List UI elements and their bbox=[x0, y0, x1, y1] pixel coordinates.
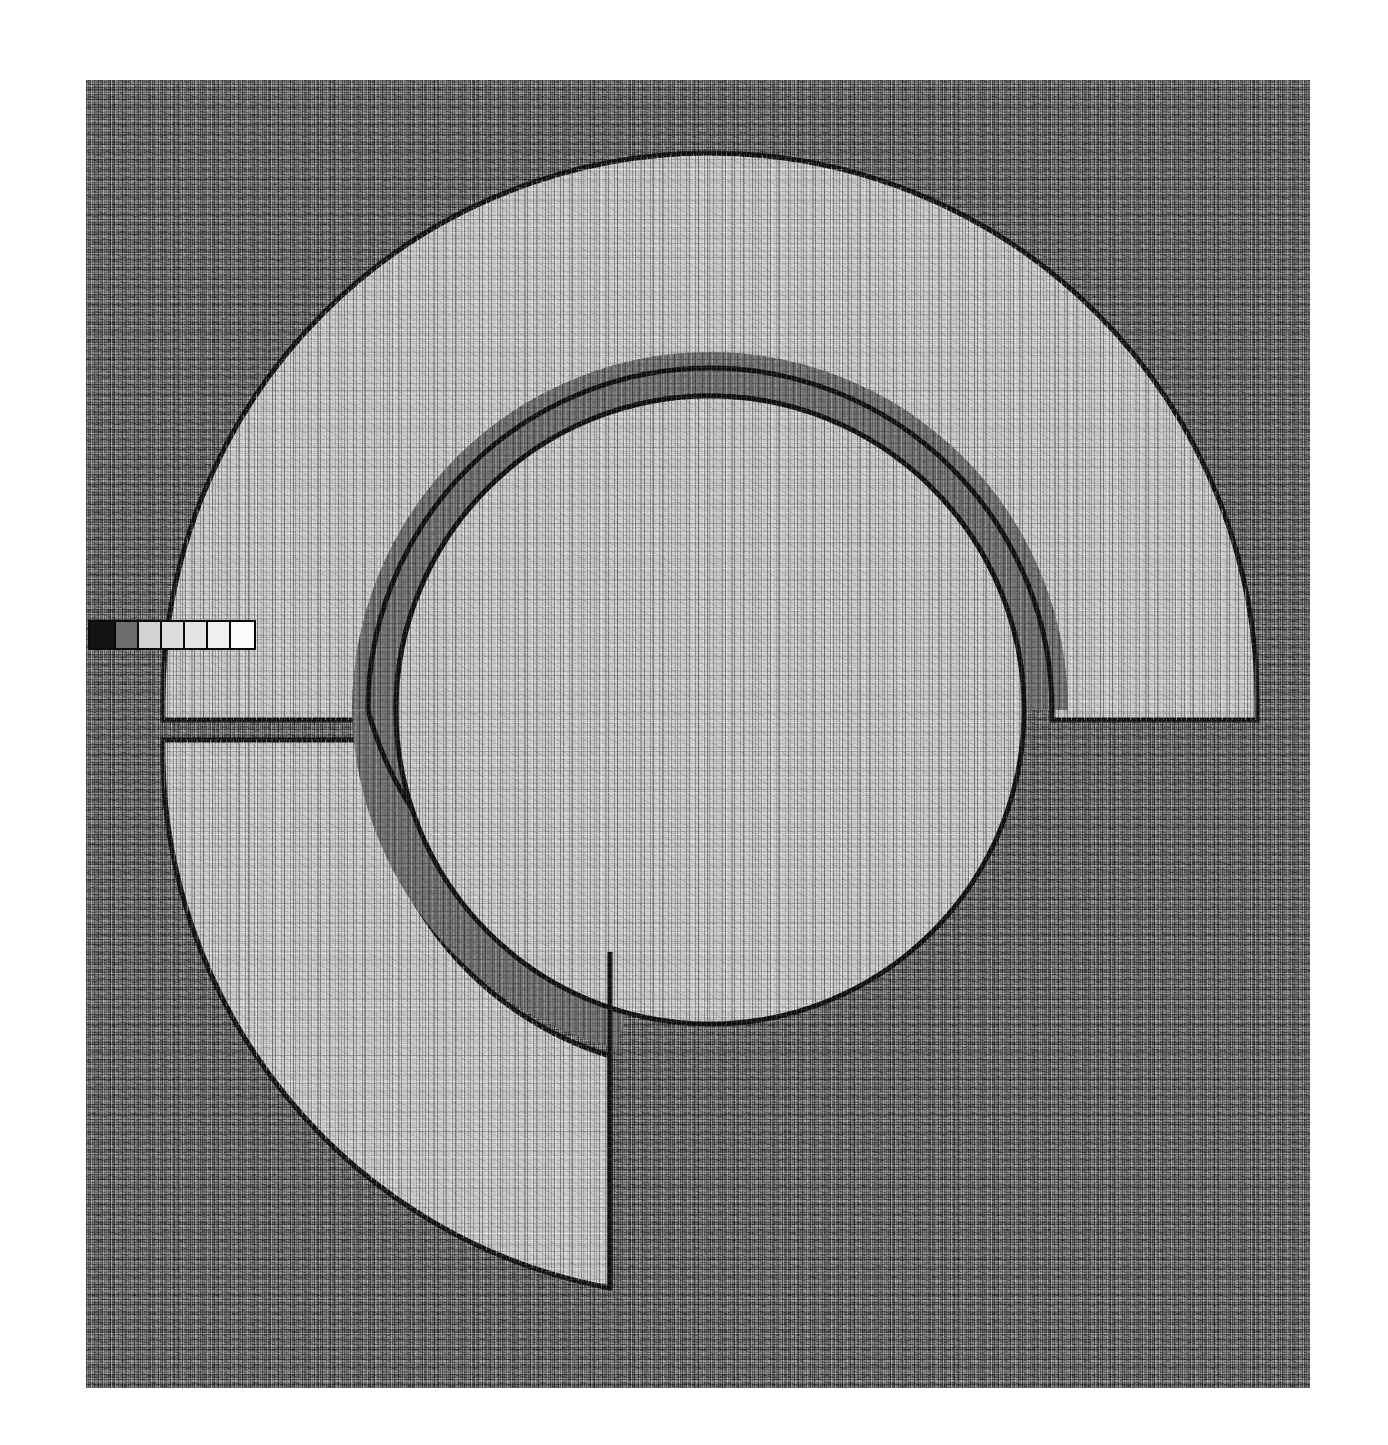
scale-bar-segment bbox=[90, 622, 116, 648]
geometry-layer bbox=[86, 80, 1310, 1388]
figure-root bbox=[0, 0, 1388, 1445]
geometry-svg bbox=[86, 80, 1310, 1388]
scale-bar-segment bbox=[139, 622, 162, 648]
scale-bar-segment bbox=[231, 622, 254, 648]
central-disc bbox=[396, 396, 1024, 1024]
scale-bar[interactable] bbox=[88, 620, 256, 650]
scale-bar-segment bbox=[185, 622, 208, 648]
scale-bar-segment bbox=[208, 622, 231, 648]
scale-bar-segment bbox=[162, 622, 185, 648]
scale-bar-segment bbox=[116, 622, 139, 648]
micrograph-plate bbox=[86, 80, 1310, 1388]
